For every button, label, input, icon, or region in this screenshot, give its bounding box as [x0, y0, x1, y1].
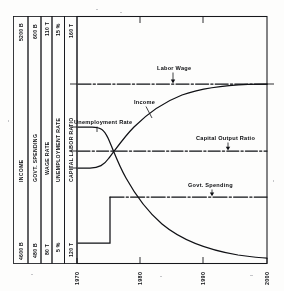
y-axis-min-unemployment-rate: 5 % [55, 242, 61, 252]
y-axis-min-income: 4600 B [18, 242, 24, 260]
y-axis-min-values: 4600 B 480 B 80 T 5 % 120 T [18, 242, 74, 260]
y-axis-min-govt-spending: 480 B [32, 243, 38, 258]
annotation-label-income: Income [134, 99, 155, 105]
x-tick-1990: 1990 [200, 272, 206, 285]
y-axis-title-income: INCOME [18, 159, 24, 182]
annotation-label-labor-wage: Labor Wage [157, 65, 191, 71]
y-axis-title-unemployment-rate: UNEMPLOYMENT RATE [55, 118, 61, 182]
x-tick-2000: 2000 [264, 272, 270, 285]
y-axis-min-capital-labor-ratio: 120 T [68, 242, 74, 257]
y-axis-max-govt-spending: 600 B [32, 24, 38, 39]
y-axis-max-income: 5200 B [18, 23, 24, 41]
y-axis-max-capital-labor-ratio: 160 T [68, 23, 74, 38]
annotation-labor-wage: Labor Wage [157, 65, 191, 84]
annotation-govt-spending: Govt. Spending [188, 182, 233, 196]
annotation-label-govt-spending: Govt. Spending [188, 182, 233, 188]
annotation-unemployment-rate: Unemployment Rate [74, 119, 132, 125]
y-axis-max-unemployment-rate: 15 % [55, 23, 61, 36]
curve-govt-spending-step [78, 197, 110, 243]
y-axis-title-govt-spending: GOVT. SPENDING [32, 134, 38, 182]
curve-unemployment-rate [78, 127, 267, 258]
curve-income [78, 84, 267, 168]
y-axis-titles: INCOME GOVT. SPENDING WAGE RATE UNEMPLOY… [18, 117, 74, 182]
annotation-income: Income [134, 99, 155, 105]
x-tick-1980: 1980 [137, 272, 143, 285]
x-axis-labels: 1970 1980 1990 2000 [74, 272, 270, 285]
annotation-label-unemployment-rate: Unemployment Rate [74, 119, 132, 125]
annotation-label-capital-output-ratio: Capital Output Ratio [196, 135, 255, 141]
y-axis-max-wage-rate: 110 T [44, 21, 50, 36]
y-axis-title-wage-rate: WAGE RATE [44, 141, 50, 175]
y-axis-min-wage-rate: 80 T [44, 243, 50, 255]
y-axis-max-values: 5200 B 600 B 110 T 15 % 160 T [18, 21, 74, 41]
chart-figure: INCOME GOVT. SPENDING WAGE RATE UNEMPLOY… [0, 0, 284, 291]
chart-svg: INCOME GOVT. SPENDING WAGE RATE UNEMPLOY… [0, 0, 284, 291]
annotation-capital-output-ratio: Capital Output Ratio [196, 135, 255, 151]
x-tick-1970: 1970 [74, 272, 80, 285]
